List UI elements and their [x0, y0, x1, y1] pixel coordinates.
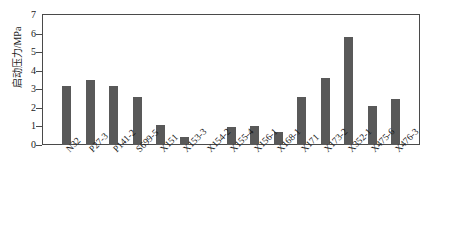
- bar-slot: [180, 15, 189, 145]
- bar-slot: [274, 15, 283, 145]
- y-axis-tick-label: 1: [22, 121, 36, 131]
- y-axis-tick: [36, 89, 42, 90]
- bar-slot: [321, 15, 330, 145]
- bar-slot: [391, 15, 400, 145]
- y-axis-tick: [36, 145, 42, 146]
- bar: [109, 86, 118, 145]
- y-axis-tick: [36, 108, 42, 109]
- bar-slot: [344, 15, 353, 145]
- y-axis-tick: [36, 34, 42, 35]
- y-axis-tick-label: 0: [22, 140, 36, 150]
- y-axis-tick: [36, 71, 42, 72]
- y-axis-tick-label: 5: [22, 47, 36, 57]
- bar-slot: [86, 15, 95, 145]
- y-axis-tick-label: 2: [22, 103, 36, 113]
- bar-slot: [368, 15, 377, 145]
- bar: [62, 86, 71, 145]
- bar-slot: [133, 15, 142, 145]
- bar-slot: [62, 15, 71, 145]
- y-axis-tick-label: 6: [22, 29, 36, 39]
- bar-slot: [109, 15, 118, 145]
- bar-slot: [227, 15, 236, 145]
- x-axis-labels: N32P27-3P141-2S699-5X151X153-3X154-2X155…: [43, 147, 419, 227]
- y-axis-tick-label: 7: [22, 10, 36, 20]
- bar-slot: [203, 15, 212, 145]
- bar: [86, 80, 95, 145]
- bar-slot: [250, 15, 259, 145]
- bar-series: [43, 15, 419, 145]
- y-axis-tick-label: 3: [22, 84, 36, 94]
- bar-slot: [297, 15, 306, 145]
- bar: [391, 99, 400, 145]
- bar-slot: [156, 15, 165, 145]
- bar-chart: 启动压力/MPa N32P27-3P141-2S699-5X151X153-3X…: [0, 0, 452, 233]
- bar: [321, 78, 330, 145]
- y-axis-tick: [36, 52, 42, 53]
- y-axis-tick-label: 4: [22, 66, 36, 76]
- y-axis-tick: [36, 126, 42, 127]
